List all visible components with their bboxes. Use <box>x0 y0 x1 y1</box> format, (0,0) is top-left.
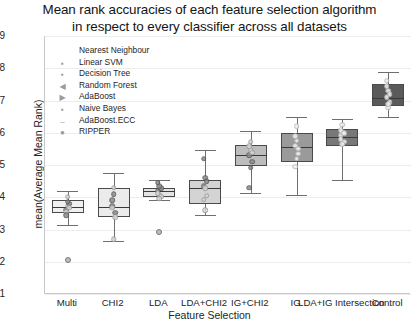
y-axis-tick-3: 3 <box>0 224 5 235</box>
legend-marker-triangle-right-icon: ▶ <box>58 94 67 101</box>
y-axis-tick-6: 6 <box>0 127 5 138</box>
legend-label: Linear SVM <box>79 57 123 69</box>
legend-label: Nearest Neighbour <box>79 45 149 57</box>
legend-marker-dash-icon: – <box>58 118 67 125</box>
legend-item-random-forest: ◀Random Forest <box>58 80 149 92</box>
legend-item-nearest-neighbour: Nearest Neighbour <box>58 45 149 57</box>
legend-marker-square-small-icon: ▪ <box>58 106 67 113</box>
y-axis-tick-1: 1 <box>0 288 5 299</box>
legend-marker-square-small-icon: ▪ <box>58 71 67 78</box>
legend-label: Random Forest <box>79 80 137 92</box>
x-axis-tick-lda: LDA <box>149 297 168 308</box>
x-axis-tick-multi: Multi <box>57 297 77 308</box>
data-point <box>385 102 391 108</box>
chart-title-line-2: in respect to every classifier across al… <box>0 19 419 36</box>
y-axis-tick-8: 8 <box>0 62 5 73</box>
chart-figure: Mean rank accuracies of each feature sel… <box>0 0 419 327</box>
legend-item-adaboost-ecc: –AdaBoost.ECC <box>58 115 149 127</box>
legend-marker-triangle-left-icon: ◀ <box>58 83 67 90</box>
legend-label: Decision Tree <box>79 68 130 80</box>
x-axis-tick-chi2: CHI2 <box>102 297 124 308</box>
y-axis-tick-2: 2 <box>0 256 5 267</box>
data-point <box>384 78 390 84</box>
legend-marker-square-small-icon: ▪ <box>58 60 67 67</box>
legend-item-linear-svm: ▪Linear SVM <box>58 57 149 69</box>
y-axis-label: mean(Average Mean Rank) <box>32 99 44 228</box>
data-point <box>387 91 393 97</box>
legend-marker-circle-icon: ● <box>58 129 67 136</box>
legend-item-ripper: ●RIPPER <box>58 126 149 138</box>
x-axis-label: Feature Selection <box>0 309 419 321</box>
legend-item-decision-tree: ▪Decision Tree <box>58 68 149 80</box>
legend-label: Naive Bayes <box>79 103 126 115</box>
legend-item-naive-bayes: ▪Naive Bayes <box>58 103 149 115</box>
gridline-y-1 <box>45 294 411 295</box>
x-axis-tick-lda-chi2: LDA+CHI2 <box>181 297 227 308</box>
legend-marker-square-icon <box>58 48 67 55</box>
whisker-cap-upper <box>378 72 399 73</box>
chart-legend: Nearest Neighbour▪Linear SVM▪Decision Tr… <box>58 45 149 138</box>
y-axis-tick-4: 4 <box>0 191 5 202</box>
legend-label: AdaBoost.ECC <box>79 115 135 127</box>
whisker-cap-lower <box>378 117 399 118</box>
x-axis-tick-control: Control <box>372 297 403 308</box>
y-axis-tick-5: 5 <box>0 159 5 170</box>
x-axis-tick-ig-chi2: IG+CHI2 <box>231 297 269 308</box>
legend-label: RIPPER <box>79 126 110 138</box>
legend-item-adaboost: ▶AdaBoost <box>58 91 149 103</box>
y-axis-tick-7: 7 <box>0 95 5 106</box>
legend-label: AdaBoost <box>79 91 115 103</box>
chart-title: Mean rank accuracies of each feature sel… <box>0 2 419 35</box>
chart-title-line-1: Mean rank accuracies of each feature sel… <box>43 2 377 17</box>
y-axis-tick-9: 9 <box>0 30 5 41</box>
data-point <box>384 83 390 89</box>
